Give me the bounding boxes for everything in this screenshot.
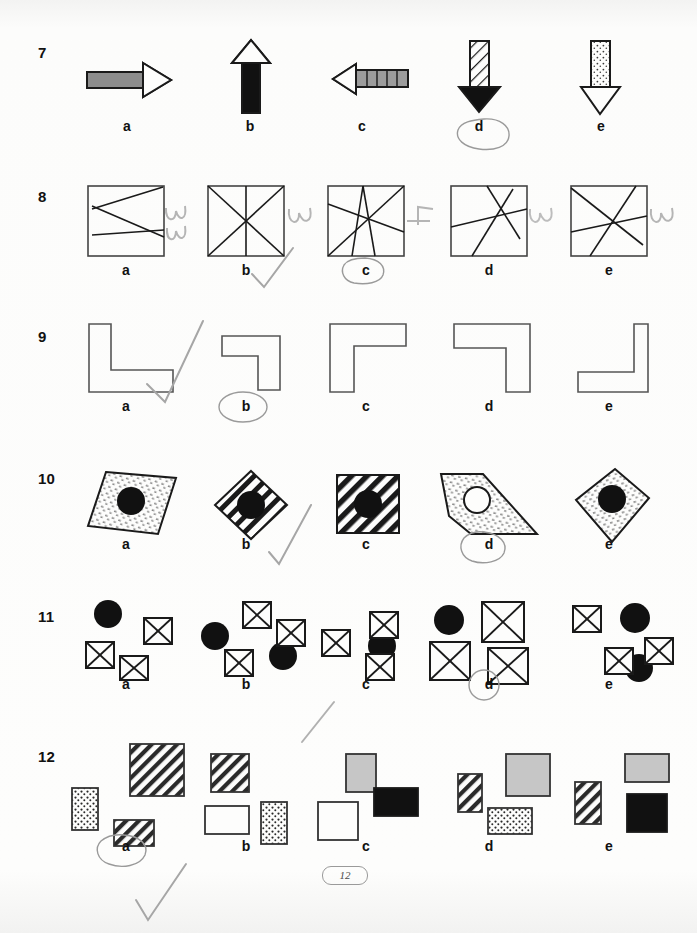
- item-12-label-b: b: [233, 838, 259, 854]
- item-12-label-d: d: [476, 838, 502, 854]
- item-8-label-b: b: [233, 262, 259, 278]
- item-12-label-c: c: [353, 838, 379, 854]
- item-8-option-b-figure[interactable]: [207, 185, 285, 257]
- item-10-label-e: e: [596, 536, 622, 552]
- item-12-option-e-figure[interactable]: [565, 748, 685, 844]
- item-10-option-b-figure[interactable]: [212, 468, 290, 542]
- item-number-11: 11: [38, 608, 54, 625]
- item-8-option-e-figure[interactable]: [570, 185, 648, 257]
- item-9-option-a-figure[interactable]: [87, 322, 175, 394]
- item-12-option-a-figure[interactable]: [62, 742, 182, 842]
- item-9-option-e-figure[interactable]: [576, 322, 650, 394]
- item-8-option-c-figure[interactable]: [327, 185, 405, 257]
- item-11-option-b-figure[interactable]: [193, 592, 309, 682]
- item-10-label-b: b: [233, 536, 259, 552]
- item-10-option-c-figure[interactable]: [335, 473, 401, 535]
- pencil-check-bottom: [130, 862, 194, 928]
- item-7-label-a: a: [114, 118, 140, 134]
- item-7-label-d: d: [466, 118, 492, 134]
- item-10-option-d-figure[interactable]: [437, 470, 541, 540]
- item-10-label-d: d: [476, 536, 502, 552]
- item-11-label-c: c: [353, 676, 379, 692]
- page-number: 12: [322, 866, 368, 885]
- item-11-option-e-figure[interactable]: [565, 598, 677, 682]
- item-8-option-d-figure[interactable]: [450, 185, 528, 257]
- pencil-number-item-8-a: [163, 198, 187, 246]
- pencil-number-item-8-e: [650, 200, 674, 234]
- item-7-option-d-figure[interactable]: [457, 38, 505, 116]
- item-12-option-b-figure[interactable]: [205, 752, 315, 842]
- item-7-option-e-figure[interactable]: [578, 38, 626, 118]
- worksheet-page: 7 a b: [0, 0, 697, 933]
- item-8-label-c: c: [353, 262, 379, 278]
- item-9-option-b-figure[interactable]: [220, 334, 282, 392]
- item-11-label-b: b: [233, 676, 259, 692]
- item-11-option-d-figure[interactable]: [428, 592, 550, 684]
- item-8-label-e: e: [596, 262, 622, 278]
- item-12-option-c-figure[interactable]: [318, 752, 434, 844]
- item-7-label-e: e: [588, 118, 614, 134]
- item-9-label-c: c: [353, 398, 379, 414]
- item-8-label-a: a: [113, 262, 139, 278]
- pencil-check-item-11: [300, 700, 340, 744]
- item-number-12: 12: [38, 748, 55, 765]
- item-10-option-e-figure[interactable]: [572, 466, 652, 546]
- item-11-label-a: a: [113, 676, 139, 692]
- item-9-label-e: e: [596, 398, 622, 414]
- item-9-label-d: d: [476, 398, 502, 414]
- item-7-label-c: c: [349, 118, 375, 134]
- item-8-label-d: d: [476, 262, 502, 278]
- item-number-8: 8: [38, 188, 47, 205]
- pencil-number-item-8-b: [288, 200, 312, 234]
- item-10-option-a-figure[interactable]: [84, 468, 182, 538]
- item-12-label-a: a: [113, 838, 139, 854]
- item-11-option-a-figure[interactable]: [70, 598, 182, 680]
- item-7-label-b: b: [237, 118, 263, 134]
- item-11-label-e: e: [596, 676, 622, 692]
- item-12-label-e: e: [596, 838, 622, 854]
- item-7-option-c-figure[interactable]: [330, 62, 410, 96]
- pencil-number-item-8-d: [529, 200, 553, 234]
- item-8-option-a-figure[interactable]: [87, 185, 165, 257]
- item-number-9: 9: [38, 328, 47, 345]
- item-7-option-b-figure[interactable]: [228, 37, 274, 115]
- item-10-label-c: c: [353, 536, 379, 552]
- item-9-label-b: b: [233, 398, 259, 414]
- item-9-option-c-figure[interactable]: [328, 322, 408, 394]
- item-9-label-a: a: [113, 398, 139, 414]
- item-9-option-d-figure[interactable]: [452, 322, 532, 394]
- item-11-option-c-figure[interactable]: [318, 598, 430, 682]
- item-11-label-d: d: [476, 676, 502, 692]
- item-10-label-a: a: [113, 536, 139, 552]
- pencil-number-item-8-c: [406, 200, 432, 234]
- item-12-option-d-figure[interactable]: [440, 748, 560, 844]
- item-number-10: 10: [38, 470, 55, 487]
- item-number-7: 7: [38, 44, 47, 61]
- item-7-option-a-figure[interactable]: [85, 60, 175, 100]
